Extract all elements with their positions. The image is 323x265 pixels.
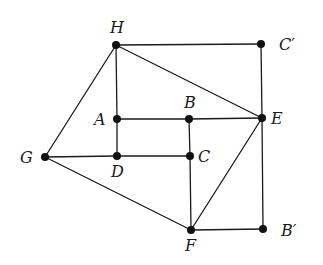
point-c bbox=[186, 152, 194, 160]
segment-h-a bbox=[116, 45, 117, 119]
point-f bbox=[187, 226, 195, 234]
segment-h-cp bbox=[116, 44, 261, 45]
label-d: D bbox=[110, 162, 124, 181]
point-b bbox=[185, 115, 193, 123]
segment-h-g bbox=[45, 45, 116, 157]
point-e bbox=[258, 114, 266, 122]
label-b: B bbox=[183, 93, 196, 112]
segment-b-c bbox=[189, 119, 190, 156]
label-f: F bbox=[184, 236, 197, 255]
labels-group: HC′ABEGDCFB′ bbox=[20, 18, 297, 255]
point-d bbox=[113, 152, 121, 160]
label-cp: C′ bbox=[279, 35, 295, 54]
points-group bbox=[41, 40, 267, 234]
segment-f-e bbox=[191, 118, 262, 230]
point-h bbox=[112, 41, 120, 49]
label-a: A bbox=[92, 110, 106, 129]
point-a bbox=[113, 115, 121, 123]
point-bp bbox=[259, 225, 267, 233]
edges-group bbox=[45, 44, 263, 230]
segment-c-f bbox=[190, 156, 191, 230]
label-bp: B′ bbox=[280, 221, 297, 240]
segment-bp-f bbox=[191, 229, 263, 230]
geometry-diagram: HC′ABEGDCFB′ bbox=[0, 0, 323, 265]
label-e: E bbox=[270, 109, 283, 128]
label-h: H bbox=[109, 18, 125, 37]
label-g: G bbox=[20, 148, 33, 167]
segment-g-d bbox=[45, 156, 117, 157]
label-c: C bbox=[198, 147, 210, 166]
segment-b-e bbox=[189, 118, 262, 119]
point-cp bbox=[257, 40, 265, 48]
segment-cp-e bbox=[261, 44, 262, 118]
segment-e-bp bbox=[262, 118, 263, 229]
point-g bbox=[41, 153, 49, 161]
